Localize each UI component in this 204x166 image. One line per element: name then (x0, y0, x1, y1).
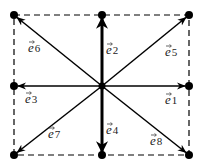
lattice-node-e4 (98, 151, 106, 159)
label-e5: e5 (165, 44, 178, 59)
label-e3: e3 (25, 91, 38, 106)
lattice-node-e2 (98, 11, 106, 19)
center-node (99, 83, 106, 90)
d2q9-lattice-diagram: e1e2e3e4e5e6e7e8 (0, 0, 204, 166)
lattice-node-e7 (10, 151, 18, 159)
lattice-node-e6 (10, 11, 18, 19)
label-e6: e6 (28, 40, 41, 55)
lattice-node-e3 (10, 82, 18, 90)
label-e8: e8 (150, 133, 163, 148)
label-e7: e7 (48, 126, 61, 141)
lattice-node-e8 (185, 151, 193, 159)
label-e1: e1 (165, 92, 177, 107)
label-e4: e4 (106, 122, 119, 137)
label-e2: e2 (106, 42, 118, 57)
lattice-node-e1 (185, 82, 193, 90)
lattice-node-e5 (185, 11, 193, 19)
